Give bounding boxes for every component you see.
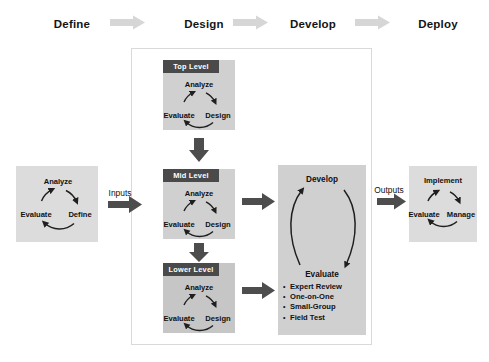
develop-cycle-develop: Develop bbox=[306, 175, 338, 184]
list-item-label: Small-Group bbox=[290, 303, 336, 311]
lower-cycle-design: Design bbox=[205, 314, 230, 323]
phase-label-deploy: Deploy bbox=[418, 18, 458, 30]
lower-cycle-evaluate: Evaluate bbox=[163, 314, 194, 323]
mid-level-tag: Mid Level bbox=[163, 169, 219, 182]
top-cycle-evaluate: Evaluate bbox=[163, 111, 194, 120]
left-cycle-analyze: Analyze bbox=[44, 177, 73, 186]
top-level-tag: Top Level bbox=[163, 60, 219, 73]
phase-label-develop: Develop bbox=[290, 18, 336, 30]
mid-cycle-analyze: Analyze bbox=[185, 189, 214, 198]
top-cycle-design: Design bbox=[205, 111, 230, 120]
phase-label-design: Design bbox=[184, 18, 224, 30]
list-item: • Field Test bbox=[283, 314, 369, 322]
lower-level-tag: Lower Level bbox=[163, 263, 219, 276]
left-cycle-evaluate: Evaluate bbox=[20, 210, 51, 219]
left-cycle-define: Define bbox=[68, 210, 91, 219]
list-item: • Small-Group bbox=[283, 303, 369, 311]
evaluation-methods-list: • Expert Review • One-on-One • Small-Gro… bbox=[283, 283, 369, 324]
list-item-label: Field Test bbox=[290, 314, 325, 322]
phase-label-define: Define bbox=[54, 18, 90, 30]
inputs-label: Inputs bbox=[109, 188, 132, 198]
outputs-label: Outputs bbox=[374, 185, 403, 195]
mid-cycle-evaluate: Evaluate bbox=[163, 220, 194, 229]
right-cycle-evaluate: Evaluate bbox=[408, 210, 439, 219]
right-cycle-manage: Manage bbox=[447, 210, 475, 219]
bullet-marker-icon: • bbox=[283, 293, 290, 301]
outputs-arrow-icon bbox=[377, 194, 406, 210]
header-arrow-define-design bbox=[110, 16, 145, 30]
diagram-canvas: Define Design Develop Deploy Analyze Def… bbox=[0, 0, 489, 362]
develop-cycle-evaluate: Evaluate bbox=[305, 270, 339, 279]
header-arrow-develop-deploy bbox=[355, 16, 390, 30]
bullet-marker-icon: • bbox=[283, 303, 290, 311]
bullet-marker-icon: • bbox=[283, 283, 290, 291]
list-item: • Expert Review bbox=[283, 283, 369, 291]
right-cycle-implement: Implement bbox=[424, 176, 462, 185]
mid-cycle-design: Design bbox=[205, 220, 230, 229]
list-item-label: One-on-One bbox=[290, 293, 334, 301]
bullet-marker-icon: • bbox=[283, 314, 290, 322]
list-item: • One-on-One bbox=[283, 293, 369, 301]
lower-cycle-analyze: Analyze bbox=[185, 283, 214, 292]
header-arrow-design-develop bbox=[233, 16, 268, 30]
list-item-label: Expert Review bbox=[290, 283, 342, 291]
top-cycle-analyze: Analyze bbox=[185, 80, 214, 89]
